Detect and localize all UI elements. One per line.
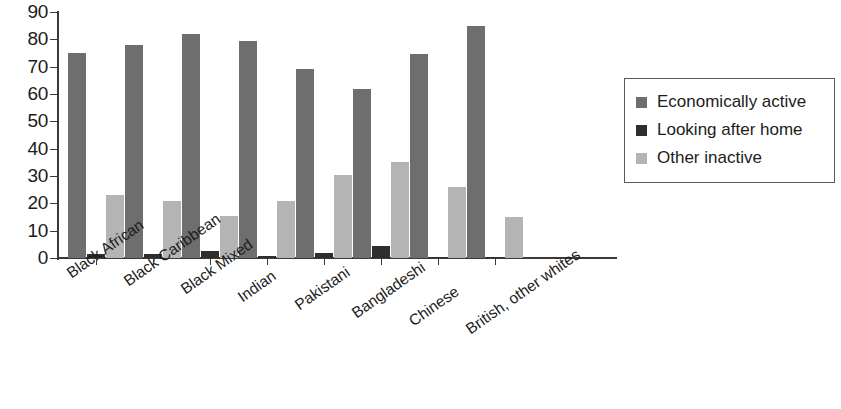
legend-item[interactable]: Economically active xyxy=(636,88,824,116)
legend-swatch-icon xyxy=(636,153,647,164)
x-axis-tick xyxy=(381,258,382,265)
y-axis-tick-label: 30 xyxy=(12,166,48,185)
bar xyxy=(239,41,257,258)
bar xyxy=(410,54,428,258)
x-axis-category-label: Indian xyxy=(235,268,279,305)
legend-swatch-icon xyxy=(636,97,647,108)
y-axis-tick-label: 40 xyxy=(12,139,48,158)
legend-label: Looking after home xyxy=(657,121,803,139)
legend-label: Other inactive xyxy=(657,149,762,167)
x-axis-tick xyxy=(96,258,97,265)
bar xyxy=(505,217,523,258)
bar-group xyxy=(296,12,352,258)
x-axis-category-label: Chinese xyxy=(406,283,462,329)
y-axis-tick-label: 10 xyxy=(12,221,48,240)
x-axis-tick xyxy=(210,258,211,265)
x-axis-category-label: Pakistani xyxy=(292,264,353,313)
bar-group xyxy=(467,12,523,258)
legend-swatch-icon xyxy=(636,125,647,136)
bar xyxy=(353,89,371,258)
y-axis-tick-label: 70 xyxy=(12,57,48,76)
y-axis-tick-label: 60 xyxy=(12,84,48,103)
bar-group xyxy=(410,12,466,258)
bar xyxy=(391,162,409,258)
bar xyxy=(372,246,390,258)
y-axis-tick-label: 50 xyxy=(12,111,48,130)
y-axis-tick-label: 80 xyxy=(12,29,48,48)
chart-legend: Economically activeLooking after homeOth… xyxy=(624,78,835,183)
bar xyxy=(334,175,352,258)
bar xyxy=(68,53,86,258)
bar xyxy=(467,26,485,258)
bar xyxy=(277,201,295,258)
x-axis-category-labels: Black AfricanBlack CaribbeanBlack MixedI… xyxy=(0,258,660,409)
bar xyxy=(448,187,466,258)
y-axis-labels: 0102030405060708090 xyxy=(0,0,48,270)
y-axis-tick-label: 90 xyxy=(12,2,48,21)
x-axis-category-label: British, other whites xyxy=(463,246,583,337)
bar-group xyxy=(239,12,295,258)
legend-item[interactable]: Other inactive xyxy=(636,144,824,172)
legend-item[interactable]: Looking after home xyxy=(636,116,824,144)
bar-group xyxy=(68,12,124,258)
legend-label: Economically active xyxy=(657,93,806,111)
plot-area xyxy=(58,12,613,258)
x-axis-tick xyxy=(438,258,439,265)
y-axis-tick-label: 20 xyxy=(12,193,48,212)
bar xyxy=(296,69,314,258)
x-axis-tick xyxy=(267,258,268,265)
bar-chart: 0102030405060708090 Black AfricanBlack C… xyxy=(0,0,841,409)
bar-group xyxy=(353,12,409,258)
x-axis-tick xyxy=(495,258,496,265)
x-axis-tick xyxy=(324,258,325,265)
x-axis-tick xyxy=(153,258,154,265)
